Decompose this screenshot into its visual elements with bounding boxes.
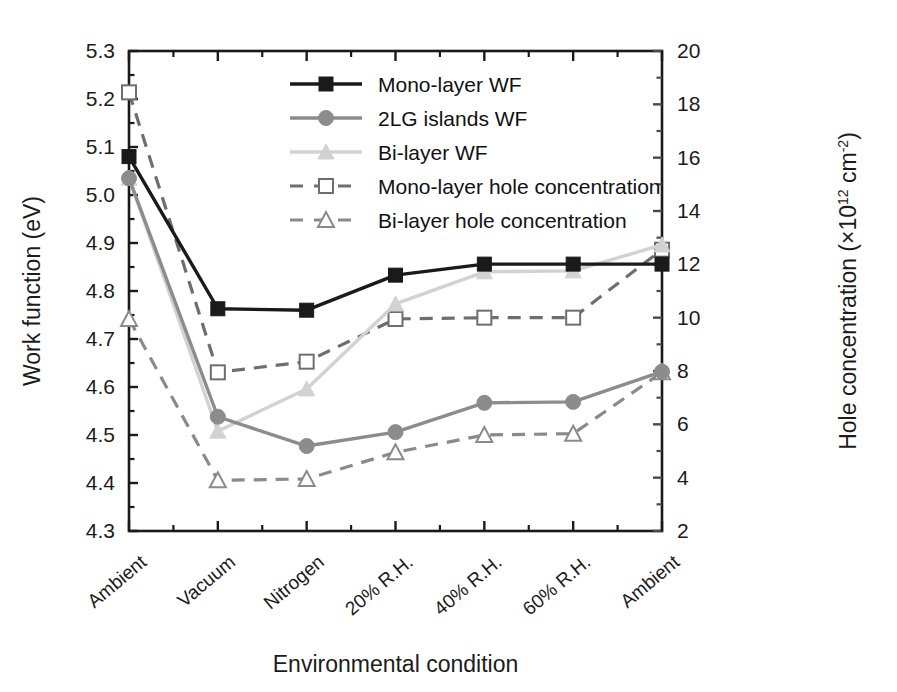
left-tick-label: 4.4 <box>86 471 116 494</box>
legend-label: Mono-layer WF <box>378 73 522 96</box>
right-tick-label: 2 <box>677 519 689 542</box>
left-tick-label: 5.3 <box>86 39 115 62</box>
left-tick-label: 4.7 <box>86 327 115 350</box>
legend-marker <box>319 179 333 193</box>
legend-marker <box>319 111 334 126</box>
data-point <box>566 311 580 325</box>
right-tick-label: 20 <box>677 39 700 62</box>
data-point <box>122 85 136 99</box>
data-point <box>300 355 314 369</box>
data-point <box>388 425 403 440</box>
series-bi-layer-hole-concentration <box>121 311 670 487</box>
x-category-label: 60% R.H. <box>519 551 595 619</box>
left-tick-label: 4.3 <box>86 519 115 542</box>
right-tick-label: 6 <box>677 412 689 435</box>
legend-item: Bi-layer hole concentration <box>290 209 627 232</box>
data-point <box>655 257 669 271</box>
x-category-label: 20% R.H. <box>341 551 417 619</box>
legend-marker <box>319 77 333 91</box>
x-category-label: Vacuum <box>173 551 239 611</box>
x-category-labels: AmbientVacuumNitrogen20% R.H.40% R.H.60%… <box>83 551 683 620</box>
data-point <box>477 311 491 325</box>
right-tick-label: 14 <box>677 199 701 222</box>
data-point <box>121 311 137 326</box>
work-function-hole-concentration-chart: 4.34.44.54.64.74.84.95.05.15.25.32468101… <box>0 0 897 692</box>
legend-label: Bi-layer hole concentration <box>378 209 627 232</box>
y2-axis-title: Hole concentration (×1012 cm-2) <box>835 132 861 450</box>
right-tick-label: 8 <box>677 359 689 382</box>
data-point <box>389 312 403 326</box>
legend-label: 2LG islands WF <box>378 107 527 130</box>
x-category-label: Ambient <box>83 551 150 612</box>
data-point <box>566 394 581 409</box>
left-tick-label: 5.0 <box>86 183 115 206</box>
y-axis-title: Work function (eV) <box>19 196 45 386</box>
legend-item: Mono-layer hole concentration <box>290 175 661 198</box>
data-point <box>122 150 136 164</box>
right-tick-label: 16 <box>677 146 700 169</box>
legend-item: Bi-layer WF <box>290 141 488 164</box>
data-point <box>211 302 225 316</box>
left-tick-label: 4.6 <box>86 375 115 398</box>
data-point <box>210 472 226 487</box>
legend-label: Bi-layer WF <box>378 141 488 164</box>
series-line <box>129 92 662 372</box>
legend: Mono-layer WF2LG islands WFBi-layer WFMo… <box>290 73 661 232</box>
legend-label: Mono-layer hole concentration <box>378 175 661 198</box>
right-tick-label: 10 <box>677 306 700 329</box>
data-point <box>211 365 225 379</box>
right-tick-label: 12 <box>677 252 700 275</box>
data-point <box>566 257 580 271</box>
chart-figure: 4.34.44.54.64.74.84.95.05.15.25.32468101… <box>0 0 897 692</box>
data-point <box>122 171 137 186</box>
x-axis-title: Environmental condition <box>273 651 518 677</box>
y2-axis-title-text: Hole concentration (×1012 cm-2) <box>835 132 861 450</box>
x-category-label: Nitrogen <box>259 551 328 613</box>
data-point <box>477 257 491 271</box>
x-category-label: Ambient <box>616 551 683 612</box>
data-point <box>477 395 492 410</box>
data-point <box>299 439 314 454</box>
data-point <box>388 444 404 459</box>
data-point <box>210 409 225 424</box>
right-axis: 2468101214161820 <box>653 39 701 542</box>
data-point <box>300 303 314 317</box>
legend-item: 2LG islands WF <box>290 107 527 130</box>
x-category-label: 40% R.H. <box>430 551 506 619</box>
left-tick-label: 4.9 <box>86 231 115 254</box>
data-point <box>655 364 670 379</box>
legend-item: Mono-layer WF <box>290 73 522 96</box>
data-point <box>389 268 403 282</box>
right-tick-label: 18 <box>677 92 700 115</box>
left-tick-label: 5.2 <box>86 87 115 110</box>
data-point <box>210 423 226 438</box>
right-tick-label: 4 <box>677 466 689 489</box>
left-tick-label: 4.5 <box>86 423 115 446</box>
left-tick-label: 5.1 <box>86 135 115 158</box>
left-tick-label: 4.8 <box>86 279 115 302</box>
